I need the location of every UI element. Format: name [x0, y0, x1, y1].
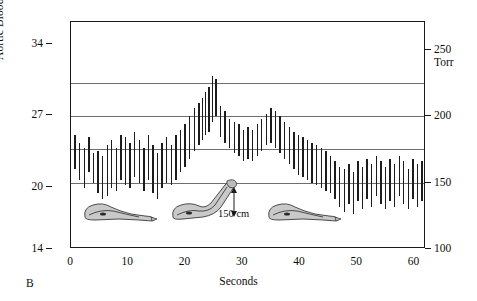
- beat-bar: [97, 151, 98, 193]
- beat-bar: [408, 169, 409, 209]
- tick-mark: [425, 49, 431, 50]
- beat-bar: [376, 156, 377, 196]
- x-tick-label: 20: [179, 255, 191, 267]
- beat-bar: [243, 130, 244, 162]
- beat-bar: [143, 148, 144, 190]
- beat-bar: [252, 130, 253, 162]
- beat-bar: [229, 119, 230, 148]
- beat-bar: [125, 137, 126, 185]
- beat-bar: [399, 156, 400, 196]
- tick-mark: [425, 182, 431, 183]
- beat-bar: [266, 114, 267, 146]
- beat-bar: [189, 116, 190, 158]
- beat-bar: [194, 108, 195, 150]
- beat-bar: [261, 119, 262, 151]
- tick-mark: [46, 186, 52, 187]
- beat-bar: [275, 111, 276, 148]
- figure-panel-b: Aortic Blood Pressure (kPa) Giraffe Torr…: [0, 0, 477, 301]
- beat-bar: [224, 111, 225, 143]
- beat-bar: [215, 79, 216, 116]
- beat-bar: [371, 164, 372, 206]
- beat-bar: [220, 106, 221, 138]
- giraffe-head-down-right: [263, 199, 343, 225]
- beat-bar: [120, 135, 121, 180]
- tick-mark: [425, 115, 431, 116]
- beat-bar: [205, 92, 206, 134]
- beat-bar: [88, 137, 89, 172]
- beat-bar: [311, 143, 312, 183]
- y-tick-kpa: 27: [32, 108, 44, 120]
- beat-bar: [184, 124, 185, 166]
- beat-bar: [148, 135, 149, 180]
- y-tick-torr: 100: [434, 242, 451, 254]
- beat-bar: [334, 161, 335, 198]
- beat-bar: [325, 151, 326, 191]
- tick-mark: [46, 114, 52, 115]
- beat-bar: [353, 172, 354, 214]
- beat-bar: [389, 159, 390, 201]
- y-tick-kpa: 14: [32, 242, 44, 254]
- beat-bar: [257, 124, 258, 156]
- beat-bar: [152, 145, 153, 193]
- x-tick-label: 10: [122, 255, 134, 267]
- y-tick-torr: 250: [434, 43, 451, 55]
- beat-bar: [421, 161, 422, 201]
- beat-bar: [198, 103, 199, 145]
- beat-bar: [74, 135, 75, 170]
- beat-bar: [412, 159, 413, 199]
- beat-bar: [139, 140, 140, 182]
- beat-bar: [180, 130, 181, 172]
- beat-bar: [279, 116, 280, 153]
- beat-bar: [208, 87, 209, 132]
- y-tick-kpa: 20: [32, 180, 44, 192]
- beat-bar: [107, 145, 108, 195]
- beat-bar: [366, 159, 367, 199]
- beat-bar: [238, 124, 239, 156]
- tick-mark: [46, 43, 52, 44]
- x-tick-label: 40: [293, 255, 305, 267]
- beat-bar: [161, 143, 162, 188]
- beat-bar: [270, 108, 271, 143]
- beat-bar: [344, 169, 345, 211]
- beat-bar: [116, 148, 117, 190]
- beat-bar: [357, 161, 358, 201]
- y-tick-kpa: 34: [32, 37, 44, 49]
- beat-bar: [111, 140, 112, 188]
- x-tick-label: 30: [236, 255, 248, 267]
- beat-bar: [298, 135, 299, 175]
- beat-bar: [394, 164, 395, 206]
- x-axis-label: Seconds: [0, 275, 477, 287]
- beat-bar: [380, 161, 381, 203]
- beat-bar: [129, 143, 130, 188]
- beat-bar: [175, 135, 176, 180]
- y-axis-label-left: Aortic Blood Pressure (kPa): [0, 0, 5, 60]
- height-annotation-label: 150 cm: [218, 208, 249, 219]
- panel-label: B: [26, 277, 34, 289]
- beat-bar: [93, 153, 94, 182]
- tick-mark: [425, 248, 431, 249]
- beat-bar: [293, 132, 294, 169]
- beat-bar: [330, 156, 331, 193]
- giraffe-head-down-left: [79, 199, 159, 225]
- y-axis-unit-right: Torr: [434, 56, 454, 68]
- beat-bar: [166, 137, 167, 182]
- beat-bar: [79, 143, 80, 180]
- beat-bar: [316, 145, 317, 185]
- beat-bar: [102, 156, 103, 198]
- beat-bar: [348, 164, 349, 204]
- beat-bar: [234, 122, 235, 154]
- beat-bar: [289, 127, 290, 164]
- beat-bar: [302, 137, 303, 177]
- beat-bar: [417, 164, 418, 206]
- beat-bar: [84, 148, 85, 188]
- y-tick-torr: 150: [434, 176, 451, 188]
- beat-bar: [202, 98, 203, 140]
- x-tick-label: 60: [408, 255, 420, 267]
- beat-bar: [212, 76, 213, 121]
- beat-bar: [385, 167, 386, 209]
- beat-bar: [321, 148, 322, 188]
- beat-bar: [134, 132, 135, 177]
- tick-mark: [46, 248, 52, 249]
- beat-bar: [284, 122, 285, 159]
- beat-bar: [307, 140, 308, 180]
